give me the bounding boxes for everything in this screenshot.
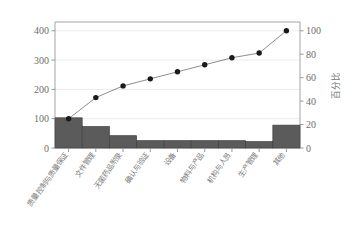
right-axis-tick-label: 20 bbox=[306, 119, 316, 130]
x-axis-category-label: 确认与验证 bbox=[123, 150, 151, 185]
left-axis-tick-label: 0 bbox=[44, 143, 49, 154]
cumulative-point bbox=[256, 50, 261, 55]
bar bbox=[246, 142, 273, 148]
right-axis-title-text: 百分比 bbox=[330, 72, 341, 99]
cumulative-point bbox=[66, 116, 71, 121]
cumulative-point bbox=[148, 76, 153, 81]
bar bbox=[164, 141, 191, 148]
right-axis-title: 百分比 bbox=[330, 72, 341, 99]
cumulative-point bbox=[202, 62, 207, 67]
cumulative-point bbox=[93, 95, 98, 100]
x-axis-category-label: 质量控制与质量保证 bbox=[26, 150, 70, 208]
left-axis-tick-label: 200 bbox=[34, 84, 49, 95]
bar bbox=[137, 141, 164, 148]
x-axis-category-label: 无菌药品附录 bbox=[92, 150, 124, 190]
x-axis-category-label: 物料与产品 bbox=[178, 151, 205, 185]
right-axis-tick-label: 0 bbox=[306, 143, 311, 154]
left-axis: 4003002001000 bbox=[34, 25, 55, 153]
cumulative-point bbox=[284, 28, 289, 33]
x-axis-category-labels: 质量控制与质量保证文件管理无菌药品附录确认与验证设备物料与产品机构与人员生产管理… bbox=[26, 150, 288, 208]
left-axis-tick-label: 100 bbox=[34, 113, 49, 124]
bar bbox=[273, 125, 300, 148]
pareto-chart: 4003002001000 100806040200 质量控制与质量保证文件管理… bbox=[0, 0, 357, 240]
x-axis-ticks bbox=[69, 148, 287, 152]
bar bbox=[55, 118, 82, 148]
cumulative-point bbox=[120, 83, 125, 88]
bar bbox=[218, 141, 245, 148]
right-axis-tick-label: 40 bbox=[306, 96, 316, 107]
bar bbox=[82, 127, 109, 148]
x-axis-category-label: 机构与人员 bbox=[205, 151, 232, 185]
right-axis-tick-label: 60 bbox=[306, 72, 316, 83]
left-axis-tick-label: 300 bbox=[34, 55, 49, 66]
x-axis-category-label: 生产管理 bbox=[236, 150, 260, 179]
right-axis: 100806040200 bbox=[300, 25, 321, 153]
bar bbox=[110, 136, 137, 148]
x-axis-category-label: 其他 bbox=[272, 150, 288, 167]
bar bbox=[191, 141, 218, 148]
chart-canvas: 4003002001000 100806040200 质量控制与质量保证文件管理… bbox=[0, 0, 357, 240]
right-axis-tick-label: 80 bbox=[306, 49, 316, 60]
cumulative-point bbox=[175, 69, 180, 74]
x-axis-category-label: 文件管理 bbox=[73, 150, 97, 179]
right-axis-tick-label: 100 bbox=[306, 25, 321, 36]
cumulative-point bbox=[229, 55, 234, 60]
left-axis-tick-label: 400 bbox=[34, 25, 49, 36]
x-axis-category-label: 设备 bbox=[163, 150, 179, 167]
